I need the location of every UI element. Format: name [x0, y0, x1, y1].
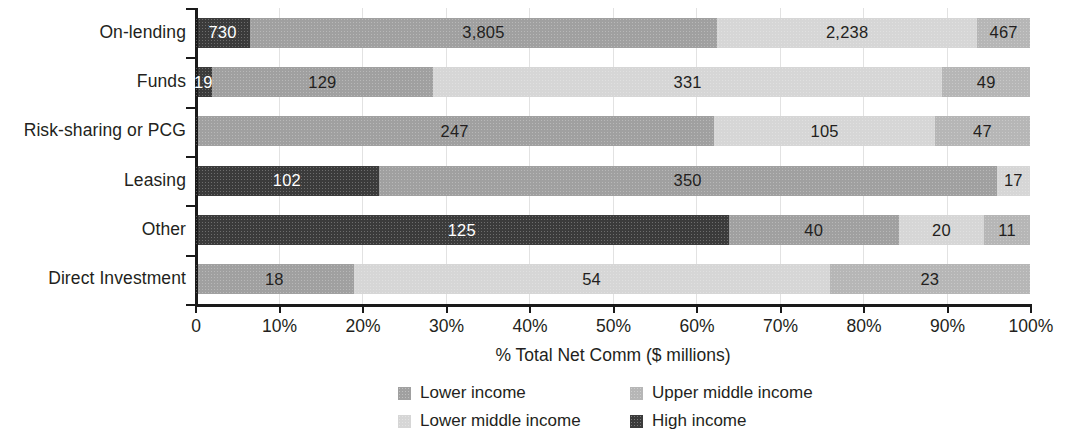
bar-segment-value: 105 — [811, 123, 839, 140]
bar-segment-value: 23 — [920, 271, 939, 288]
y-axis-tick — [186, 8, 195, 10]
legend-swatch-icon — [398, 387, 411, 400]
y-axis-tick — [186, 156, 195, 158]
bar-segment-value: 40 — [804, 222, 823, 239]
bar-segment: 54 — [354, 264, 830, 294]
bar-segment: 20 — [899, 215, 984, 245]
x-axis-tick — [195, 304, 197, 313]
bar-segment-value: 17 — [1004, 172, 1023, 189]
bar-segment-value: 129 — [308, 74, 336, 91]
legend-item: Upper middle income — [630, 383, 918, 403]
x-axis-tick — [613, 304, 615, 313]
legend-label: Upper middle income — [652, 383, 813, 403]
legend-swatch-icon — [398, 415, 411, 428]
bar-segment: 105 — [714, 116, 934, 146]
x-axis-label: 100% — [1009, 316, 1054, 337]
bar-segment: 23 — [830, 264, 1030, 294]
bar-row: 24710547 — [195, 116, 1030, 146]
bar-segment-value: 102 — [273, 172, 301, 189]
bar-row: 7303,8052,238467 — [195, 18, 1030, 48]
bar-segment: 47 — [935, 116, 1030, 146]
bar-segment-value: 467 — [990, 24, 1018, 41]
legend-item: Lower income — [398, 383, 630, 403]
y-axis-tick — [186, 107, 195, 109]
stacked-bar: 7303,8052,238467 — [195, 18, 1030, 48]
y-axis-label: Risk-sharing or PCG — [24, 120, 186, 141]
bar-segment: 40 — [729, 215, 899, 245]
stacked-bar: 125402011 — [195, 215, 1030, 245]
legend: Lower incomeUpper middle incomeLower mid… — [398, 379, 918, 435]
bar-segment: 125 — [195, 215, 729, 245]
x-axis-label: 50% — [596, 316, 631, 337]
y-axis-tick — [186, 205, 195, 207]
bar-segment: 129 — [212, 67, 433, 97]
legend-label: Lower income — [420, 383, 526, 403]
bar-segment-value: 350 — [674, 172, 702, 189]
x-axis-label: 80% — [846, 316, 881, 337]
bar-segment: 18 — [195, 264, 354, 294]
x-axis-tick — [947, 304, 949, 313]
x-axis-label: 30% — [429, 316, 464, 337]
x-axis-tick — [529, 304, 531, 313]
bar-segment: 17 — [997, 166, 1030, 196]
y-axis-tick — [186, 57, 195, 59]
bar-segment-value: 18 — [265, 271, 284, 288]
bar-segment-value: 2,238 — [826, 24, 868, 41]
bars-container: 7303,8052,238467191293314924710547102350… — [195, 8, 1030, 304]
x-axis-tick — [696, 304, 698, 313]
bar-segment: 11 — [984, 215, 1030, 245]
x-axis-label: 90% — [930, 316, 965, 337]
y-axis-label: On-lending — [99, 22, 186, 43]
x-axis-label: 70% — [763, 316, 798, 337]
bar-row: 125402011 — [195, 215, 1030, 245]
bar-segment: 467 — [977, 18, 1030, 48]
bar-row: 1912933149 — [195, 67, 1030, 97]
legend-label: High income — [652, 411, 747, 431]
stacked-bar: 185423 — [195, 264, 1030, 294]
y-axis-label: Direct Investment — [48, 268, 186, 289]
bar-segment: 247 — [195, 116, 714, 146]
stacked-bar: 10235017 — [195, 166, 1030, 196]
bar-segment: 730 — [195, 18, 250, 48]
legend-label: Lower middle income — [420, 411, 581, 431]
bar-row: 185423 — [195, 264, 1030, 294]
bar-segment-value: 125 — [448, 222, 476, 239]
bar-segment: 3,805 — [250, 18, 717, 48]
x-axis-tick — [362, 304, 364, 313]
bar-segment: 331 — [433, 67, 942, 97]
x-axis-label: 40% — [512, 316, 547, 337]
x-axis-tick — [279, 304, 281, 313]
x-axis-tick — [863, 304, 865, 313]
x-axis-tick — [780, 304, 782, 313]
bar-segment-value: 331 — [674, 74, 702, 91]
bar-segment-value: 730 — [208, 24, 236, 41]
bar-segment-value: 3,805 — [462, 24, 504, 41]
x-axis-tick — [446, 304, 448, 313]
x-axis-tick — [1030, 304, 1032, 313]
bar-segment-value: 54 — [582, 271, 601, 288]
y-axis-label: Funds — [137, 71, 186, 92]
stacked-bar-chart: On-lendingFundsRisk-sharing or PCGLeasin… — [0, 0, 1068, 441]
y-axis-label: Leasing — [124, 170, 186, 191]
bar-segment-value: 47 — [973, 123, 992, 140]
y-axis-label: Other — [142, 219, 186, 240]
bar-segment: 350 — [379, 166, 997, 196]
legend-item: High income — [630, 411, 918, 431]
x-axis-label: 20% — [345, 316, 380, 337]
x-axis-title: % Total Net Comm ($ millions) — [195, 345, 1031, 366]
stacked-bar: 1912933149 — [195, 67, 1030, 97]
x-axis-label: 60% — [679, 316, 714, 337]
x-axis-label: 0 — [191, 316, 201, 337]
y-axis-tick — [186, 304, 195, 306]
bar-segment-value: 247 — [441, 123, 469, 140]
bar-segment-value: 19 — [194, 74, 213, 91]
legend-item: Lower middle income — [398, 411, 630, 431]
y-axis-tick — [186, 255, 195, 257]
bar-segment: 102 — [195, 166, 379, 196]
bar-segment: 49 — [942, 67, 1030, 97]
bar-segment-value: 11 — [998, 222, 1016, 239]
bar-segment: 2,238 — [717, 18, 978, 48]
legend-swatch-icon — [630, 415, 643, 428]
stacked-bar: 24710547 — [195, 116, 1030, 146]
x-axis-label: 10% — [262, 316, 297, 337]
